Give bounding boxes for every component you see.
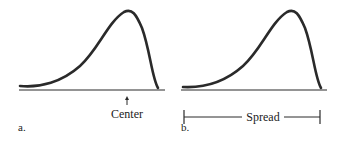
panel-label-b: b. (181, 121, 190, 133)
panel-b: Spread b. (181, 11, 327, 133)
panel-a: Center a. (18, 11, 165, 133)
center-arrow-icon (125, 96, 129, 100)
skewed-curve-b (183, 11, 321, 88)
distribution-figure: Center a. Spread b. (0, 0, 342, 146)
panel-label-a: a. (18, 121, 26, 133)
spread-label: Spread (246, 110, 279, 124)
skewed-curve-a (20, 11, 158, 88)
center-label: Center (111, 107, 143, 121)
